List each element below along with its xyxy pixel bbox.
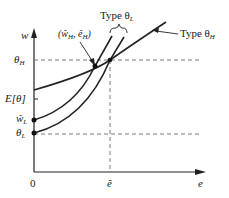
- x-axis-label: e: [198, 178, 203, 189]
- separating-point-label: (ŵH, êH): [58, 29, 91, 41]
- theta-l-dot: [32, 131, 37, 136]
- theta-h-label: θH: [14, 54, 24, 67]
- w-hat-l-label: ŵL: [16, 113, 27, 126]
- y-axis-arrow-icon: [31, 28, 37, 38]
- type-h-label: Type θH: [180, 28, 215, 41]
- pooling-point-dot: [108, 58, 113, 63]
- theta-l-label: θL: [16, 127, 25, 140]
- type-l-indifference-curve-lower: [34, 37, 124, 133]
- point-pointer: [80, 42, 93, 62]
- type-h-pointer: [156, 31, 178, 34]
- expected-theta-label: E[θ]: [5, 93, 26, 104]
- e-tilde-label: ẽ: [107, 178, 112, 189]
- type-l-label: Type θL: [100, 10, 134, 23]
- origin-label: 0: [30, 178, 36, 189]
- type-l-brace: [110, 24, 127, 33]
- x-axis-arrow-icon: [195, 169, 206, 175]
- y-axis-label: w: [21, 30, 28, 41]
- w-hat-l-dot: [32, 118, 37, 123]
- separating-point-dot: [93, 64, 98, 69]
